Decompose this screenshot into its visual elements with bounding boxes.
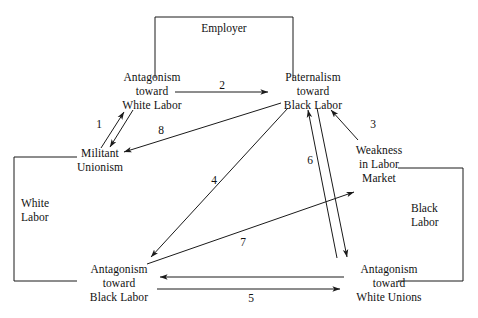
node-line-1: Antagonism — [341, 262, 437, 276]
black-labor-label-line2: Labor — [411, 215, 438, 229]
black-labor-label-line1: Black — [411, 201, 438, 215]
node-line-1: Weakness — [345, 143, 413, 157]
edge-label-7: 7 — [235, 236, 251, 248]
node-line-1: Militant — [62, 146, 138, 160]
node-antagonism-toward-white-labor: Antagonism toward White Labor — [106, 70, 198, 112]
edge-label-5: 5 — [243, 292, 259, 304]
node-line-2: Unionism — [62, 160, 138, 174]
node-line-2: toward — [106, 84, 198, 98]
node-line-2: toward — [268, 84, 358, 98]
node-antagonism-toward-black-labor: Antagonism toward Black Labor — [75, 262, 163, 304]
white-labor-label-line2: Labor — [21, 210, 49, 224]
node-paternalism-toward-black-labor: Paternalism toward Black Labor — [268, 70, 358, 112]
node-line-1: Antagonism — [75, 262, 163, 276]
node-militant-unionism: Militant Unionism — [62, 146, 138, 174]
node-line-2: in Labor — [345, 157, 413, 171]
edge-label-1: 1 — [91, 118, 107, 130]
white-labor-group-label: White Labor — [21, 196, 49, 224]
node-line-2: toward — [75, 276, 163, 290]
node-line-1: Paternalism — [268, 70, 358, 84]
node-line-3: White Unions — [341, 290, 437, 304]
edge-label-4: 4 — [206, 174, 222, 186]
edge-3-arrow — [331, 110, 358, 140]
employer-label: Employer — [186, 21, 262, 35]
black-labor-group-label: Black Labor — [411, 201, 438, 229]
edge-label-3: 3 — [365, 118, 381, 130]
node-line-2: toward — [341, 276, 437, 290]
node-line-3: White Labor — [106, 98, 198, 112]
node-line-1: Antagonism — [106, 70, 198, 84]
node-antagonism-toward-white-unions: Antagonism toward White Unions — [341, 262, 437, 304]
edge-label-6: 6 — [302, 154, 318, 166]
edge-label-2: 2 — [214, 79, 230, 91]
white-labor-label-line1: White — [21, 196, 49, 210]
node-line-3: Black Labor — [268, 98, 358, 112]
node-line-3: Black Labor — [75, 290, 163, 304]
diagram-canvas: Employer White Labor Black Labor Antagon… — [0, 0, 478, 318]
node-line-3: Market — [345, 171, 413, 185]
edge-label-8: 8 — [153, 124, 169, 136]
node-weakness-in-labor-market: Weakness in Labor Market — [345, 143, 413, 185]
